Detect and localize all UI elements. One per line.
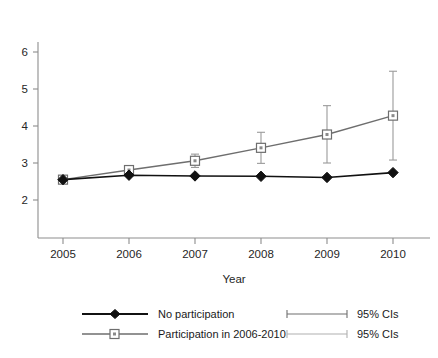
x-tick-label: 2007 [182,248,208,260]
x-tick-label: 2005 [50,248,76,260]
data-point-participation-center [392,114,395,117]
y-tick-label: 2 [22,194,28,206]
legend-label-participation: Participation in 2006-2010 [158,328,286,340]
x-tick-label: 2006 [116,248,142,260]
line-chart: 6 5 4 3 2 2005 2006 2007 2008 2009 2010 … [0,0,438,358]
legend-square-dot-icon [113,333,116,336]
y-tick-label: 6 [22,46,28,58]
y-tick-label: 4 [22,120,29,132]
legend-label-ci-2: 95% CIs [357,328,399,340]
x-tick-label: 2009 [314,248,340,260]
y-tick-label: 5 [22,83,28,95]
x-tick-label: 2010 [380,248,406,260]
x-axis-title: Year [222,273,245,285]
data-point-participation-center [326,133,329,136]
data-point-participation-center [260,146,263,149]
chart-figure: 6 5 4 3 2 2005 2006 2007 2008 2009 2010 … [0,0,438,358]
data-point-participation-center [194,159,197,162]
legend-label-ci-1: 95% CIs [357,308,399,320]
x-tick-label: 2008 [248,248,274,260]
legend-label-no-participation: No participation [158,308,234,320]
y-tick-label: 3 [22,157,28,169]
